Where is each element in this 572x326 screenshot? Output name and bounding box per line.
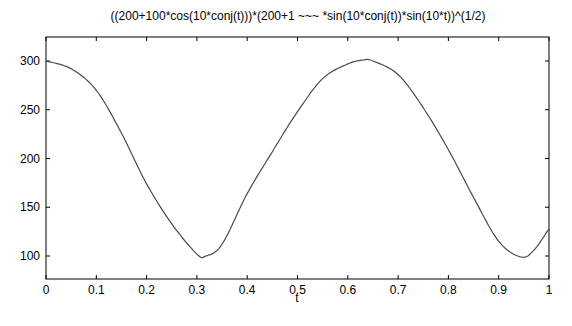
- x-tick-label: 0.1: [88, 283, 105, 297]
- axes-box: [46, 37, 549, 279]
- y-tick-label: 300: [20, 54, 40, 68]
- x-tick-label: 0.2: [138, 283, 155, 297]
- x-tick-label: 0.6: [339, 283, 356, 297]
- x-tick-label: 1: [546, 283, 553, 297]
- x-tick-label: 0.8: [440, 283, 457, 297]
- y-tick-label: 150: [20, 200, 40, 214]
- x-tick-label: 0.7: [390, 283, 407, 297]
- y-tick-label: 200: [20, 152, 40, 166]
- x-tick-label: 0.4: [239, 283, 256, 297]
- x-tick-label: 0.9: [490, 283, 507, 297]
- y-tick-label: 100: [20, 249, 40, 263]
- chart-canvas: 00.10.20.30.40.50.60.70.80.91 1001502002…: [0, 0, 572, 326]
- x-tick-label: 0.3: [189, 283, 206, 297]
- y-tick-label: 250: [20, 103, 40, 117]
- x-tick-label: 0: [43, 283, 50, 297]
